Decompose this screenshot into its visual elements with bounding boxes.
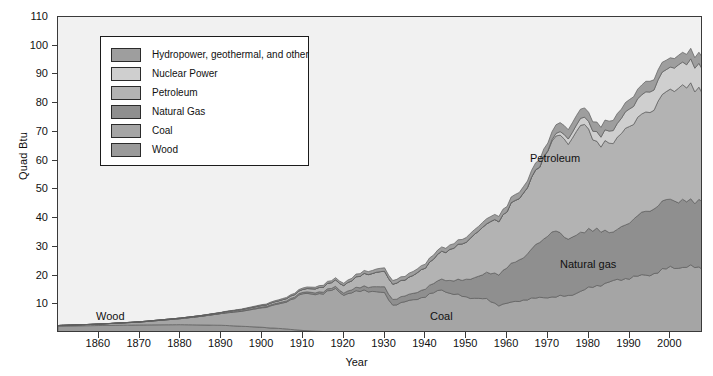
x-tickmark-1930: [384, 332, 385, 338]
legend-swatch: [111, 67, 141, 81]
y-tick-80: 80: [4, 97, 48, 107]
x-tickmark-1870: [139, 332, 140, 338]
legend-swatch: [111, 48, 141, 62]
y-tick-110: 110: [4, 11, 48, 21]
legend-label: Petroleum: [152, 87, 198, 99]
x-axis-label: Year: [0, 356, 713, 368]
y-tick-70: 70: [4, 126, 48, 136]
y-tick-20: 20: [4, 270, 48, 280]
x-tickmark-1940: [424, 332, 425, 338]
legend-swatch: [111, 124, 141, 138]
annotation-natural-gas: Natural gas: [560, 258, 616, 270]
x-tick-2000: 2000: [645, 338, 693, 348]
x-tickmark-1950: [465, 332, 466, 338]
y-tick-100: 100: [4, 40, 48, 50]
legend-label: Nuclear Power: [152, 68, 218, 80]
legend-label: Hydropower, geothermal, and other: [152, 49, 309, 61]
y-tick-60: 60: [4, 155, 48, 165]
x-tickmark-1970: [547, 332, 548, 338]
annotation-petroleum: Petroleum: [530, 152, 580, 164]
x-tickmark-1920: [343, 332, 344, 338]
legend-swatch: [111, 143, 141, 157]
y-tick-10: 10: [4, 298, 48, 308]
y-tick-90: 90: [4, 68, 48, 78]
chart-root: Quad Btu Year 102030405060708090100110 1…: [0, 0, 713, 376]
legend-label: Wood: [152, 144, 178, 156]
x-tickmark-1890: [220, 332, 221, 338]
legend-swatch: [111, 86, 141, 100]
x-tickmark-1980: [588, 332, 589, 338]
legend-label: Coal: [152, 125, 173, 137]
y-tick-40: 40: [4, 212, 48, 222]
x-tickmark-1910: [302, 332, 303, 338]
y-tick-30: 30: [4, 241, 48, 251]
legend-label: Natural Gas: [152, 106, 205, 118]
x-tickmark-1990: [629, 332, 630, 338]
x-tickmark-1960: [506, 332, 507, 338]
annotation-coal: Coal: [430, 310, 453, 322]
legend: Hydropower, geothermal, and otherNuclear…: [100, 36, 309, 166]
x-tickmark-1860: [98, 332, 99, 338]
annotation-wood: Wood: [96, 310, 125, 322]
x-tickmark-2000: [669, 332, 670, 338]
x-tickmark-1880: [179, 332, 180, 338]
x-tickmark-1900: [261, 332, 262, 338]
legend-swatch: [111, 105, 141, 119]
y-tick-50: 50: [4, 183, 48, 193]
